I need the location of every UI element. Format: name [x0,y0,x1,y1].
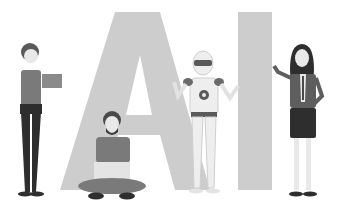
woman-with-tablet [18,43,62,197]
businesswoman [274,44,322,197]
letter-i [238,12,272,190]
ai-illustration: AI [0,0,344,216]
letter-a [60,12,210,190]
